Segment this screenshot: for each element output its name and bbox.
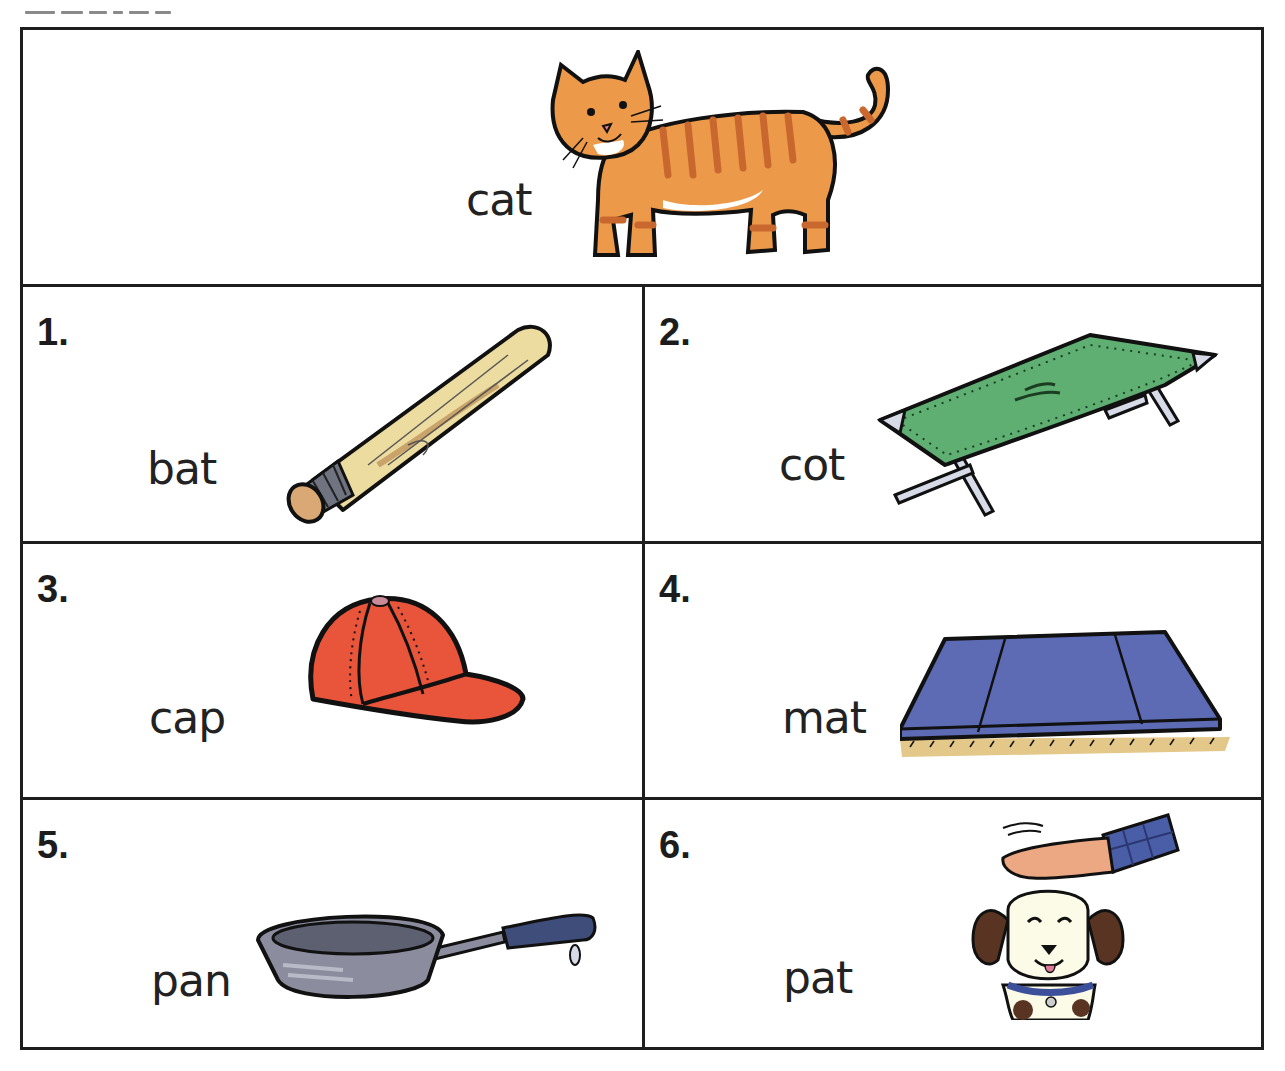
example-word: cat: [466, 174, 531, 225]
worksheet-table: cat 1.: [20, 27, 1264, 1050]
item-number: 2.: [659, 311, 691, 354]
exercise-item-3: 3. cap: [23, 544, 645, 800]
item-number: 5.: [37, 824, 69, 867]
example-row: cat: [23, 30, 1261, 287]
frying-pan-icon: [253, 900, 613, 1010]
item-word: pat: [783, 952, 852, 1003]
item-number: 1.: [37, 311, 69, 354]
exercise-item-6: 6. pat: [645, 800, 1261, 1050]
item-word: mat: [782, 692, 866, 743]
exercise-item-4: 4. mat: [645, 544, 1261, 800]
item-number: 3.: [37, 568, 69, 611]
mat-icon: [900, 629, 1230, 759]
cat-icon: [543, 50, 913, 260]
exercise-item-5: 5. pan: [23, 800, 645, 1050]
item-number: 6.: [659, 824, 691, 867]
exercise-grid: 1. bat 2. cot: [23, 287, 1261, 1047]
item-number: 4.: [659, 568, 691, 611]
baseball-bat-icon: [258, 315, 568, 535]
cot-icon: [875, 325, 1225, 525]
cutoff-heading-fragment: [25, 0, 195, 4]
exercise-item-1: 1. bat: [23, 287, 645, 544]
exercise-item-2: 2. cot: [645, 287, 1261, 544]
hand-patting-dog-icon: [963, 810, 1183, 1020]
baseball-cap-icon: [308, 589, 528, 739]
item-word: cap: [149, 692, 225, 743]
item-word: bat: [147, 443, 216, 494]
item-word: pan: [151, 955, 231, 1006]
item-word: cot: [779, 439, 844, 490]
